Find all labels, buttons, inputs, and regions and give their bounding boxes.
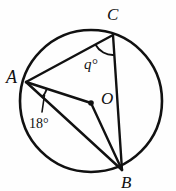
vertex-label-C: C [107, 6, 118, 23]
geometry-canvas [0, 0, 176, 191]
chord-CB-segment [113, 35, 122, 170]
vertex-label-O: O [101, 90, 113, 107]
angle-label-18: 18° [29, 117, 49, 131]
chord-AC-segment [26, 35, 113, 82]
angle-label-q: q° [84, 57, 98, 72]
vertex-label-B: B [121, 174, 131, 191]
vertex-label-A: A [6, 68, 17, 86]
angle-arc-at-C [95, 45, 114, 55]
circle-geometry-diagram: C A O B q° 18° [0, 0, 176, 191]
center-point-O-dot [88, 100, 94, 106]
